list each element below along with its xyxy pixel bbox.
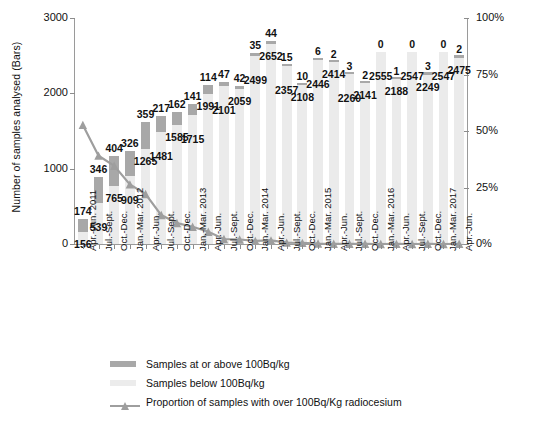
- y-axis-right-tick-label: 50%: [476, 124, 522, 136]
- x-axis-tick-label: Oct.-Dec.: [244, 211, 255, 251]
- bar-label-above-threshold: 15: [272, 51, 302, 63]
- bar-label-above-threshold: 2: [444, 43, 474, 55]
- x-axis-tick-mark: [412, 245, 413, 249]
- y-axis-right-tick-label: 75%: [476, 68, 522, 80]
- legend-item[interactable]: Samples at or above 100Bq/kg: [110, 355, 510, 374]
- x-axis-tick-mark: [240, 245, 241, 249]
- bar-label-above-threshold: 326: [115, 137, 145, 149]
- bar-label-below-threshold: 2188: [379, 85, 413, 97]
- x-axis-tick-label: Oct.-Dec.: [181, 211, 192, 251]
- x-axis-tick-label: Apr.-Jun.: [338, 213, 349, 251]
- bar-label-below-threshold: 2108: [285, 91, 319, 103]
- x-axis-tick-mark: [146, 245, 147, 249]
- y-axis-left-tick-label: 3000: [22, 11, 68, 23]
- bar-label-above-threshold: 0: [397, 38, 427, 50]
- x-axis-tick-label: Jan.-Mar. 2013: [197, 188, 208, 251]
- bar-label-below-threshold: 1481: [144, 150, 178, 162]
- x-axis-tick-mark: [255, 245, 256, 249]
- bar-label-below-threshold: 2141: [348, 89, 382, 101]
- proportion-line-marker: [79, 121, 87, 129]
- x-axis-tick-label: Apr.-Jun.: [150, 213, 161, 251]
- legend-swatch-below-threshold: [110, 380, 136, 386]
- x-axis-tick-mark: [161, 245, 162, 249]
- x-axis-tick-mark: [130, 245, 131, 249]
- bar-label-below-threshold: 1715: [176, 133, 210, 145]
- legend-swatch-above-threshold: [110, 361, 136, 367]
- x-axis-tick-label: Jul.-Sept.: [103, 211, 114, 251]
- legend-label: Samples below 100Bq/kg: [146, 374, 265, 393]
- bar-label-below-threshold: 2499: [238, 74, 272, 86]
- legend-item[interactable]: Proportion of samples with over 100Bq/Kg…: [110, 393, 510, 412]
- x-axis-tick-label: Jul.-Sept.: [165, 211, 176, 251]
- y-axis-right-tick-label: 25%: [476, 181, 522, 193]
- x-axis-tick-label: Jan.-Mar. 2012: [134, 188, 145, 251]
- bar-label-below-threshold: 2475: [442, 64, 476, 76]
- chart-legend: Samples at or above 100Bq/kgSamples belo…: [110, 355, 510, 412]
- x-axis-tick-label: Oct.-Dec.: [369, 211, 380, 251]
- bar-label-above-threshold: 2: [319, 48, 349, 60]
- x-axis-tick-mark: [177, 245, 178, 249]
- x-axis-tick-label: Jan.-Mar. 2017: [447, 188, 458, 251]
- x-axis-tick-label: Jan.-Mar. 2015: [322, 188, 333, 251]
- x-axis-tick-mark: [459, 245, 460, 249]
- bar-label-above-threshold: 0: [366, 38, 396, 50]
- x-axis-tick-label: Oct.-Dec.: [118, 211, 129, 251]
- x-axis-tick-mark: [271, 245, 272, 249]
- x-axis-tick-label: Jul.-Sept.: [416, 211, 427, 251]
- y-axis-left-tick-label: 1000: [22, 162, 68, 174]
- x-axis-tick-label: Apr.-Jun.: [212, 213, 223, 251]
- x-axis-tick-mark: [428, 245, 429, 249]
- x-axis-tick-label: Oct.-Dec.: [432, 211, 443, 251]
- x-axis-tick-label: Jan.-Mar. 2014: [259, 188, 270, 251]
- x-axis-tick-label: Apr.-Jun.: [400, 213, 411, 251]
- chart-container: Number of samples analysed (Bars) Percen…: [0, 0, 541, 421]
- x-axis-tick-mark: [208, 245, 209, 249]
- x-axis-tick-label: Apr.-Jun.: [463, 213, 474, 251]
- x-axis-tick-mark: [443, 245, 444, 249]
- x-axis-tick-mark: [302, 245, 303, 249]
- legend-marker-line-triangle: [110, 397, 136, 407]
- bar-label-above-threshold: 346: [84, 163, 114, 175]
- x-axis-tick-label: Jul.-Sept.: [228, 211, 239, 251]
- x-axis-tick-label: Jul.-Sept.: [353, 211, 364, 251]
- x-axis-tick-mark: [381, 245, 382, 249]
- y-axis-right-tick-label: 100%: [476, 11, 522, 23]
- x-axis-tick-mark: [224, 245, 225, 249]
- x-axis-tick-label: Jul.-Sept.: [291, 211, 302, 251]
- x-axis-tick-label: Apr.-Jun.: [275, 213, 286, 251]
- y-axis-right-tick-label: 0%: [476, 237, 522, 249]
- x-axis-tick-mark: [365, 245, 366, 249]
- bar-label-above-threshold: 44: [256, 27, 286, 39]
- y-axis-left-tick-label: 0: [22, 237, 68, 249]
- bar-label-below-threshold: 2249: [411, 81, 445, 93]
- x-axis-tick-mark: [318, 245, 319, 249]
- x-axis-tick-mark: [287, 245, 288, 249]
- x-axis-tick-mark: [193, 245, 194, 249]
- x-axis-tick-label: Oct.-Dec.: [306, 211, 317, 251]
- x-axis-tick-mark: [99, 245, 100, 249]
- legend-item[interactable]: Samples below 100Bq/kg: [110, 374, 510, 393]
- x-axis-tick-mark: [334, 245, 335, 249]
- legend-label: Samples at or above 100Bq/kg: [146, 355, 290, 374]
- x-axis-tick-mark: [114, 245, 115, 249]
- bar-label-below-threshold: 2059: [223, 95, 257, 107]
- x-axis-tick-mark: [83, 245, 84, 249]
- x-axis-tick-label: Jan.-Mar. 2016: [385, 188, 396, 251]
- y-axis-left-title: Number of samples analysed (Bars): [10, 32, 22, 222]
- x-axis-tick-mark: [349, 245, 350, 249]
- x-axis-tick-label: Apr.-Jun. 2011: [87, 190, 98, 251]
- x-axis-tick-mark: [396, 245, 397, 249]
- legend-label: Proportion of samples with over 100Bq/Kg…: [146, 393, 402, 412]
- y-axis-left-tick-label: 2000: [22, 86, 68, 98]
